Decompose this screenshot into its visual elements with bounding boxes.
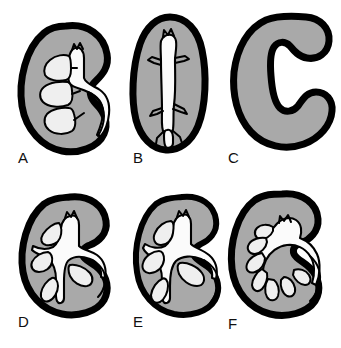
kidney-outline-c [234,16,333,147]
panel-a-illustration [14,18,122,158]
panel-d: D [14,190,124,320]
calyx-middle-a [40,82,72,107]
panel-c: C [228,8,340,158]
panel-e: E [128,190,238,320]
panel-b-label: B [133,150,144,165]
panel-a: A [14,18,122,158]
panel-f: F [224,186,338,320]
panel-d-label: D [18,314,29,329]
panel-f-illustration [224,186,338,320]
panel-f-label: F [228,316,238,331]
panel-c-illustration [228,8,340,158]
kidney-variants-figure: A B C [0,0,341,348]
panel-e-label: E [133,314,144,329]
panel-c-label: C [228,150,239,165]
calyx-f-5 [265,279,279,300]
lower-root-b [164,130,173,148]
panel-d-illustration [14,190,124,320]
panel-b: B [128,10,212,158]
calyx-lower-a [45,108,76,134]
panel-a-label: A [18,150,29,165]
collecting-trunk-b [161,35,177,135]
panel-e-illustration [128,190,238,320]
panel-b-illustration [128,10,212,158]
